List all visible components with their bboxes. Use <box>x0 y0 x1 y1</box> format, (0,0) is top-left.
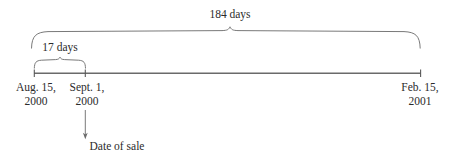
tick-label-aug-15-line2: 2000 <box>16 95 56 109</box>
tick-label-feb-15: Feb. 15, 2001 <box>401 81 438 108</box>
timeline-diagram: 184 days 17 days Aug. 15, 2000 Sept. 1, … <box>0 0 454 158</box>
annotation-date-of-sale: Date of sale <box>90 140 145 154</box>
tick-label-feb-15-line2: 2001 <box>401 95 438 109</box>
span-label-17-days: 17 days <box>42 41 77 55</box>
tick-label-aug-15: Aug. 15, 2000 <box>16 81 56 108</box>
brace-17-days <box>34 57 85 68</box>
span-label-184-days: 184 days <box>209 8 250 22</box>
diagram-vector-layer <box>0 0 454 158</box>
tick-label-sept-1-line1: Sept. 1, <box>70 81 105 95</box>
tick-label-aug-15-line1: Aug. 15, <box>16 81 56 95</box>
brace-184-days <box>32 27 421 49</box>
tick-label-sept-1-line2: 2000 <box>70 95 105 109</box>
tick-label-feb-15-line1: Feb. 15, <box>401 81 438 95</box>
tick-label-sept-1: Sept. 1, 2000 <box>70 81 105 108</box>
